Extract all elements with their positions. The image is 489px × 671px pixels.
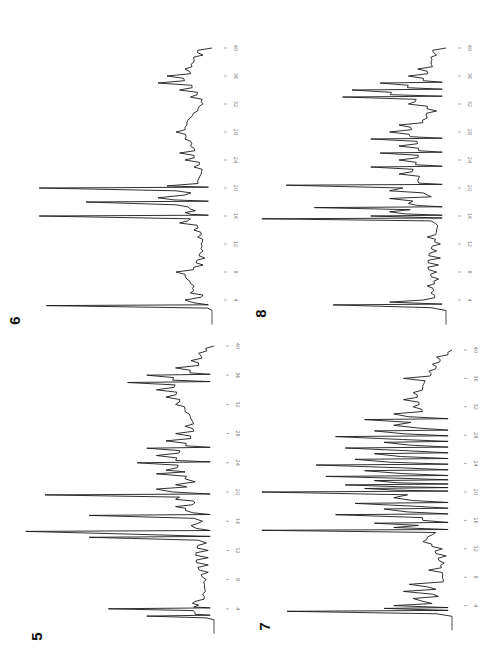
axis-tick-label: 20 (467, 185, 473, 191)
axis-tick-label: 4 (473, 604, 479, 607)
chromatogram-panel-7: 481216202428323640 7 (250, 338, 489, 671)
axis-tick-label: 12 (233, 241, 239, 247)
chromatogram-plot-8: 481216202428323640 (250, 0, 489, 335)
axis-tick-label: 32 (235, 401, 241, 407)
axis-tick-label: 20 (473, 489, 479, 495)
chromatogram-trace (262, 48, 446, 311)
axis-tick-label: 40 (235, 343, 241, 349)
panel-label-5: 5 (28, 632, 45, 640)
axis-tick-label: 24 (467, 157, 473, 163)
axis-tick-label: 8 (473, 576, 479, 579)
axis-tick-label: 16 (233, 213, 239, 219)
axis-tick-label: 16 (467, 213, 473, 219)
chromatogram-trace (39, 48, 212, 311)
axis-tick-label: 36 (233, 73, 239, 79)
chromatogram-panel-6: 481216202428323640 6 (0, 0, 245, 335)
panel-label-7: 7 (256, 622, 273, 630)
axis-tick-label: 32 (467, 101, 473, 107)
chromatogram-plot-7: 481216202428323640 (250, 338, 489, 671)
axis-tick-label: 32 (473, 404, 479, 410)
axis-tick-label: 28 (467, 129, 473, 135)
axis-tick-label: 24 (233, 157, 239, 163)
chromatogram-trace (26, 346, 214, 620)
axis-tick-label: 8 (467, 270, 473, 273)
axis-tick-label: 40 (467, 45, 473, 51)
axis-tick-label: 36 (235, 372, 241, 378)
axis-tick-label: 24 (473, 460, 479, 466)
axis-tick-label: 28 (233, 129, 239, 135)
panel-label-8: 8 (252, 309, 269, 317)
axis-tick-label: 8 (233, 270, 239, 273)
panel-label-6: 6 (6, 316, 23, 324)
axis-tick-label: 20 (235, 489, 241, 495)
axis-tick-label: 16 (235, 518, 241, 524)
axis-tick-label: 16 (473, 517, 479, 523)
axis-tick-label: 28 (473, 432, 479, 438)
axis-tick-label: 24 (235, 460, 241, 466)
chromatogram-plot-6: 481216202428323640 (0, 0, 245, 335)
chromatogram-trace (262, 350, 452, 616)
axis-tick-label: 12 (473, 546, 479, 552)
chromatogram-panel-8: 481216202428323640 8 (250, 0, 489, 335)
axis-tick-label: 32 (233, 101, 239, 107)
axis-tick-label: 36 (473, 375, 479, 381)
axis-tick-label: 40 (473, 347, 479, 353)
chromatogram-plot-5: 481216202428323640 (0, 338, 245, 671)
axis-tick-label: 8 (235, 578, 241, 581)
chromatogram-panel-5: 481216202428323640 5 (0, 338, 245, 671)
axis-tick-label: 4 (235, 607, 241, 610)
axis-tick-label: 40 (233, 45, 239, 51)
axis-tick-label: 36 (467, 73, 473, 79)
axis-tick-label: 4 (467, 298, 473, 301)
axis-tick-label: 28 (235, 430, 241, 436)
axis-tick-label: 20 (233, 185, 239, 191)
axis-tick-label: 12 (467, 241, 473, 247)
axis-tick-label: 12 (235, 547, 241, 553)
axis-tick-label: 4 (233, 298, 239, 301)
